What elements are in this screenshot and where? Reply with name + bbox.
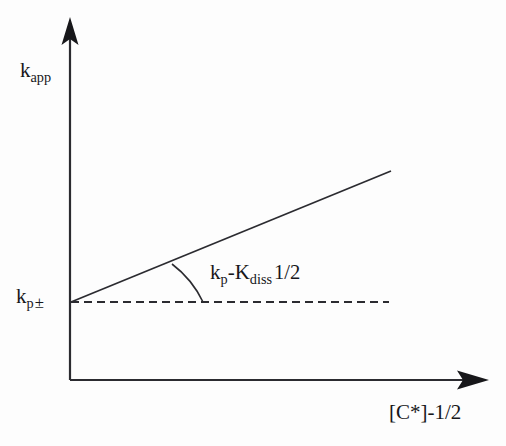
y-axis-label-sub: app (31, 69, 52, 85)
slope-term1-sub: p (221, 271, 228, 287)
intercept-label-sub: p (27, 295, 34, 311)
slope-separator: - (228, 260, 235, 284)
slope-annotation: kp-Kdiss1/2 (210, 262, 300, 283)
intercept-label-main: k (16, 284, 27, 308)
plot-canvas (0, 0, 506, 446)
y-axis-label: kapp (20, 60, 51, 81)
intercept-label: kp± (16, 286, 44, 312)
x-axis-label: [C*]-1/2 (389, 402, 461, 423)
slope-term2-sub: diss (250, 271, 272, 287)
figure-root: kapp kp± kp-Kdiss1/2 [C*]-1/2 (0, 0, 506, 446)
slope-term1-main: k (210, 260, 221, 284)
plus-minus-icon: ± (34, 293, 44, 312)
y-axis-label-main: k (20, 58, 31, 82)
slope-exponent: 1/2 (272, 261, 300, 283)
slope-term2-main: K (235, 260, 250, 284)
slope-angle-arc (172, 264, 203, 302)
